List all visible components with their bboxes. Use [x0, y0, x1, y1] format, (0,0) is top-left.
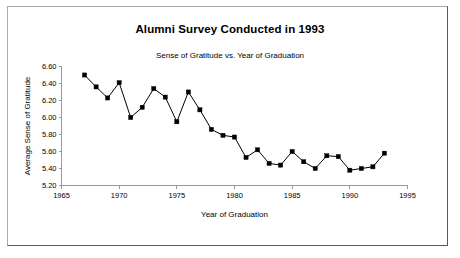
x-tick-label: 1990: [341, 191, 358, 200]
data-point: [140, 105, 144, 109]
y-axis-title: Average Sense of Gratitude: [23, 76, 32, 175]
data-point: [232, 135, 236, 139]
data-point: [244, 155, 248, 159]
data-point: [290, 149, 294, 153]
data-point: [163, 95, 167, 99]
x-tick-label: 1970: [111, 191, 128, 200]
x-tick-label: 1965: [53, 191, 70, 200]
y-axis-tick-labels: 5.205.405.605.806.006.206.406.60: [42, 62, 57, 190]
data-point: [279, 163, 283, 167]
x-axis-tick-labels: 1965197019751980198519901995: [53, 191, 416, 200]
data-point: [302, 160, 306, 164]
x-tick-label: 1985: [284, 191, 301, 200]
x-tick-label: 1975: [168, 191, 185, 200]
data-point: [336, 155, 340, 159]
data-point: [106, 96, 110, 100]
y-tick-label: 5.20: [42, 181, 57, 190]
y-tick-label: 6.60: [42, 62, 57, 71]
data-point: [175, 120, 179, 124]
chart-page: Alumni Survey Conducted in 1993 Sense of…: [0, 0, 460, 258]
data-point: [129, 115, 133, 119]
chart-svg: 5.205.405.605.806.006.206.406.60 1965197…: [0, 0, 460, 258]
data-point: [382, 151, 386, 155]
data-point: [371, 165, 375, 169]
data-point: [348, 168, 352, 172]
data-point: [313, 166, 317, 170]
x-tick-label: 1980: [226, 191, 243, 200]
data-point: [359, 166, 363, 170]
x-tick-label: 1995: [399, 191, 416, 200]
y-tick-label: 5.40: [42, 164, 57, 173]
x-axis-title: Year of Graduation: [201, 210, 268, 219]
data-point: [198, 108, 202, 112]
data-point: [255, 148, 259, 152]
plot-area: 5.205.405.605.806.006.206.406.60 1965197…: [0, 0, 460, 258]
y-tick-label: 6.40: [42, 79, 57, 88]
data-point: [209, 127, 213, 131]
data-point: [152, 87, 156, 91]
data-point: [267, 161, 271, 165]
y-tick-label: 6.20: [42, 96, 57, 105]
y-tick-label: 5.80: [42, 130, 57, 139]
data-point: [117, 81, 121, 85]
data-point: [94, 85, 98, 89]
data-series-markers: [82, 73, 386, 172]
y-tick-label: 6.00: [42, 113, 57, 122]
y-tick-label: 5.60: [42, 147, 57, 156]
data-point: [325, 154, 329, 158]
data-point: [186, 90, 190, 94]
data-point: [82, 73, 86, 77]
data-point: [221, 133, 225, 137]
